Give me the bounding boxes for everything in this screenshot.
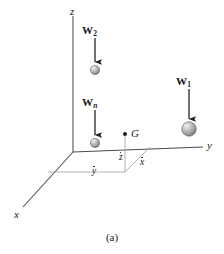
zbar-letter: z [119, 152, 123, 163]
y-axis-line [73, 147, 203, 152]
y-axis-label: y [207, 140, 212, 151]
ybar-letter: y [92, 166, 96, 177]
xbar-letter: x [140, 157, 144, 168]
figure-container: z y x W2 Wn W1 G z x y (a) [0, 0, 224, 254]
plane-parallel-line [125, 147, 150, 172]
w2-symbol: W [82, 24, 93, 36]
xbar-label: x [140, 152, 144, 168]
wn-particle-sphere [90, 138, 99, 147]
x-axis-line [23, 152, 73, 207]
wn-symbol: W [82, 96, 93, 108]
centroid-dot [123, 132, 127, 136]
w2-particle-sphere [90, 65, 99, 74]
diagram-canvas [0, 0, 224, 254]
w1-particle-sphere [182, 122, 196, 136]
w1-subscript: 1 [187, 80, 191, 89]
x-axis-label: x [14, 209, 19, 220]
axis-lines [23, 16, 203, 207]
w1-symbol: W [176, 75, 187, 87]
w2-force-label: W2 [82, 25, 97, 38]
force-arrows [95, 38, 189, 135]
wn-subscript: n [93, 101, 97, 110]
w2-subscript: 2 [93, 29, 97, 38]
centroid-label: G [131, 128, 139, 139]
w1-force-label: W1 [176, 76, 191, 89]
z-axis-label: z [70, 6, 74, 17]
zbar-label: z [119, 147, 123, 163]
figure-caption: (a) [0, 232, 224, 243]
ybar-label: y [92, 161, 96, 177]
wn-force-label: Wn [82, 97, 97, 110]
